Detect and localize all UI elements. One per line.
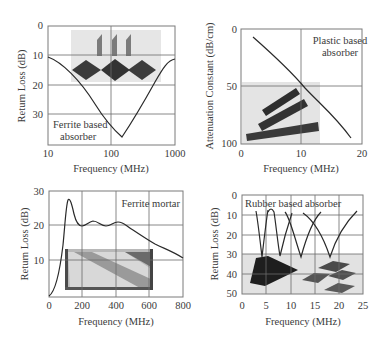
rubber-curve-2 <box>268 209 292 256</box>
x-tick: 400 <box>108 300 124 311</box>
panel-ferrite-absorber: Ferrite based absorber 0 10 20 30 10 100… <box>16 20 186 175</box>
annotation-line2: absorber <box>60 131 97 142</box>
y-tick: 30 <box>33 109 44 120</box>
x-tick: 5 <box>263 300 268 311</box>
y-tick: 50 <box>227 288 238 299</box>
annotation: Ferrite mortar <box>121 198 180 209</box>
y-tick: 30 <box>34 186 45 197</box>
y-axis-label: Return Loss (dB) <box>209 207 221 280</box>
y-tick: 20 <box>227 230 238 241</box>
y-axis-label: Return Loss (dB) <box>16 49 28 122</box>
y-tick: 30 <box>227 249 238 260</box>
ferrite-tiles-photo <box>71 30 161 82</box>
ferrite-mortar-photo <box>65 249 153 290</box>
x-tick: 15 <box>310 300 321 311</box>
y-tick: 0 <box>232 24 237 35</box>
x-tick: 20 <box>334 300 345 311</box>
rubber-curve-4 <box>303 211 357 257</box>
figure: Ferrite based absorber 0 10 20 30 10 100… <box>0 0 386 344</box>
annotation: Rubber based absorber <box>245 198 342 209</box>
panel-rubber-absorber: Rubber based absorber 0 10 20 30 40 50 0… <box>209 190 368 328</box>
x-tick: 10 <box>296 148 307 159</box>
panel-plastic-absorber: Plastic based absorber 0 50 100 0 10 20 … <box>204 22 368 175</box>
x-axis-label: Frequency (MHz) <box>263 163 339 175</box>
x-tick: 1000 <box>165 148 186 159</box>
y-tick: 20 <box>34 220 45 231</box>
y-tick: 10 <box>227 210 238 221</box>
x-tick: 25 <box>358 300 369 311</box>
y-tick: 10 <box>34 255 45 266</box>
x-tick: 200 <box>74 300 90 311</box>
y-tick: 40 <box>227 269 238 280</box>
x-tick: 600 <box>141 300 157 311</box>
x-tick: 20 <box>357 148 368 159</box>
panel-ferrite-mortar: Ferrite mortar 30 20 10 0 200 400 600 80… <box>19 186 191 328</box>
y-tick: 0 <box>232 190 237 201</box>
annotation-line1: Plastic based <box>313 35 368 46</box>
y-tick: 100 <box>221 138 237 149</box>
x-tick: 0 <box>46 300 51 311</box>
y-tick: 0 <box>38 20 43 31</box>
x-tick: 10 <box>286 300 297 311</box>
y-tick: 50 <box>227 81 238 92</box>
x-axis-label: Frequency (MHz) <box>78 316 154 328</box>
x-tick: 10 <box>43 148 54 159</box>
x-tick: 0 <box>238 148 243 159</box>
annotation-line1: Ferrite based <box>53 119 108 130</box>
y-tick: 20 <box>33 80 44 91</box>
y-axis-label: Return Loss (dB) <box>19 207 31 280</box>
x-tick: 100 <box>103 148 119 159</box>
x-tick: 800 <box>175 300 191 311</box>
x-axis-label: Frequency (MHz) <box>265 316 341 328</box>
x-tick: 0 <box>239 300 244 311</box>
x-axis-label: Frequency (MHz) <box>73 163 149 175</box>
y-tick: 10 <box>33 50 44 61</box>
annotation-line2: absorber <box>322 47 359 58</box>
y-axis-label: Attenuation Constant (dB/cm) <box>204 22 216 150</box>
